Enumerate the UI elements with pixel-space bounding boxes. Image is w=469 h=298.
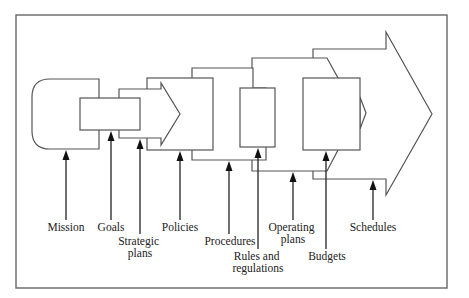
label-rules-and-regulations: Rules and regulations [232, 250, 284, 275]
rules-and-regulations-box [240, 88, 275, 147]
budgets-box [303, 78, 360, 150]
label-budgets: Budgets [308, 250, 346, 263]
plans-hierarchy-diagram: Mission Goals Strategic plans Policies P… [0, 0, 469, 298]
label-schedules: Schedules [350, 221, 397, 233]
label-procedures: Procedures [204, 235, 256, 247]
label-policies: Policies [162, 221, 199, 233]
label-mission: Mission [47, 221, 84, 233]
label-goals: Goals [98, 221, 125, 233]
goals-box [80, 98, 140, 130]
